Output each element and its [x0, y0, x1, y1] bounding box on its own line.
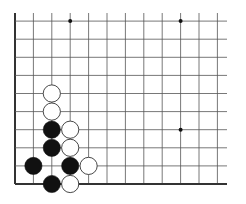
white-stone[interactable] — [62, 139, 79, 156]
black-stone[interactable] — [25, 157, 42, 174]
stones-layer[interactable] — [25, 85, 97, 193]
white-stone[interactable] — [43, 103, 60, 120]
black-stone[interactable] — [43, 139, 60, 156]
star-point — [179, 128, 183, 132]
black-stone[interactable] — [62, 157, 79, 174]
white-stone[interactable] — [80, 157, 97, 174]
white-stone[interactable] — [43, 85, 60, 102]
black-stone[interactable] — [43, 175, 60, 192]
white-stone[interactable] — [62, 175, 79, 192]
star-point — [68, 19, 72, 23]
white-stone[interactable] — [62, 121, 79, 138]
star-point — [179, 19, 183, 23]
go-board[interactable] — [0, 0, 246, 204]
black-stone[interactable] — [43, 121, 60, 138]
